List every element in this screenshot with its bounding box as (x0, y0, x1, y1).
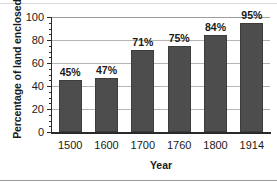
y-tick-label-80: 80 (18, 34, 44, 46)
x-axis-title: Year (52, 159, 270, 171)
y-tick-major-0 (47, 132, 52, 133)
x-tick-label-1760: 1760 (167, 139, 191, 151)
y-tick-major-20 (47, 109, 52, 110)
page-rule-top (0, 3, 277, 4)
y-tick-label-60: 60 (18, 57, 44, 69)
plot-area: 020406080100 45%47%71%75%84%95% 15001600… (52, 17, 270, 132)
y-tick-minor-35 (49, 92, 52, 93)
bar-value-label-1500: 45% (60, 66, 81, 78)
y-tick-minor-90 (49, 29, 52, 30)
y-tick-minor-50 (49, 75, 52, 76)
y-tick-minor-75 (49, 46, 52, 47)
page-rule-bottom (0, 180, 277, 181)
bar-1600 (95, 78, 118, 132)
y-tick-label-40: 40 (18, 80, 44, 92)
bar-value-label-1700: 71% (132, 36, 153, 48)
y-tick-major-100 (47, 17, 52, 18)
y-tick-major-40 (47, 86, 52, 87)
y-tick-minor-5 (49, 126, 52, 127)
x-tick-label-1700: 1700 (131, 139, 155, 151)
gridline-20 (52, 109, 270, 110)
y-tick-label-100: 100 (18, 11, 44, 23)
y-tick-minor-25 (49, 103, 52, 104)
bar-value-label-1800: 84% (205, 21, 226, 33)
y-tick-major-60 (47, 63, 52, 64)
bar-1760 (168, 46, 191, 132)
bar-1800 (204, 35, 227, 132)
x-tick-label-1500: 1500 (58, 139, 82, 151)
y-tick-label-0: 0 (18, 126, 44, 138)
y-tick-minor-95 (49, 23, 52, 24)
y-tick-label-20: 20 (18, 103, 44, 115)
x-tick-label-1914: 1914 (240, 139, 264, 151)
bar-1914 (240, 23, 263, 132)
y-tick-minor-15 (49, 115, 52, 116)
y-tick-minor-45 (49, 80, 52, 81)
y-tick-minor-85 (49, 34, 52, 35)
y-tick-minor-10 (49, 121, 52, 122)
x-tick-label-1600: 1600 (94, 139, 118, 151)
gridline-40 (52, 86, 270, 87)
y-tick-minor-30 (49, 98, 52, 99)
bar-1500 (59, 80, 82, 132)
bar-value-label-1914: 95% (241, 9, 262, 21)
bar-chart-figure: Percentage of land enclosed 020406080100… (0, 0, 277, 185)
gridline-100 (52, 17, 270, 18)
y-tick-minor-55 (49, 69, 52, 70)
x-tick-label-1800: 1800 (203, 139, 227, 151)
y-tick-minor-70 (49, 52, 52, 53)
y-tick-major-80 (47, 40, 52, 41)
bar-1700 (131, 50, 154, 132)
gridline-80 (52, 40, 270, 41)
bar-value-label-1600: 47% (96, 64, 117, 76)
gridline-60 (52, 63, 270, 64)
bar-value-label-1760: 75% (169, 32, 190, 44)
x-axis-line (51, 132, 271, 134)
y-tick-minor-65 (49, 57, 52, 58)
